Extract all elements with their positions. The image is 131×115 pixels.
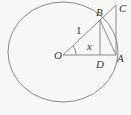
label-angle: x	[86, 40, 92, 52]
label-O: O	[54, 49, 62, 61]
label-B: B	[96, 6, 103, 18]
label-D: D	[95, 58, 104, 70]
label-radius: 1	[76, 24, 82, 36]
unit-circle-diagram: O A B C D 1 x	[0, 0, 131, 115]
angle-arc	[73, 46, 76, 55]
label-A: A	[116, 52, 124, 64]
segment-BA-chord	[100, 20, 116, 55]
label-C: C	[119, 2, 127, 14]
